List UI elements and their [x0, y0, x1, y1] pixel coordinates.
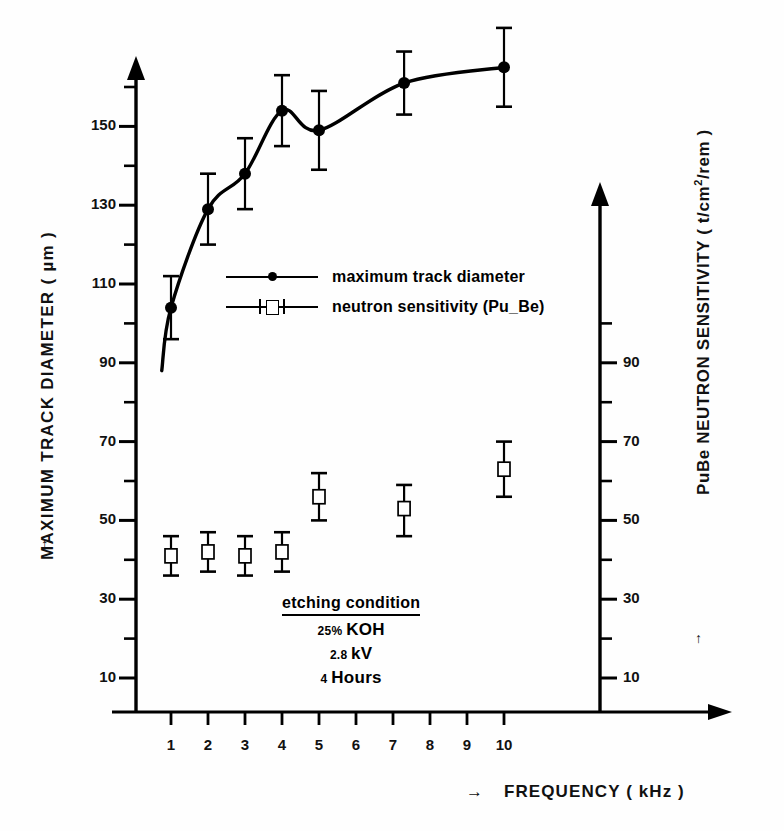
data-point-neutron-sensitivity	[313, 490, 325, 504]
etching-condition-value: 25%	[318, 624, 347, 638]
axes-layer	[112, 56, 732, 725]
data-point-track-diameter	[239, 168, 251, 180]
left-axis-tick-label: 30	[76, 589, 116, 606]
data-point-neutron-sensitivity	[398, 502, 410, 516]
data-point-neutron-sensitivity	[202, 545, 214, 559]
etching-condition-text: Hours	[331, 668, 382, 687]
x-axis-tick-label: 10	[492, 736, 516, 753]
x-axis-arrow-icon: →	[466, 782, 483, 802]
etching-condition-text: KOH	[346, 620, 385, 639]
etching-condition-title: etching condition	[282, 594, 420, 616]
left-axis-tick-label: 90	[76, 353, 116, 370]
figure-container: 1030507090110130150 1030507090 123456789…	[0, 0, 784, 831]
etching-condition-value: 4	[321, 672, 332, 686]
legend-label-track-diameter: maximum track diameter	[332, 268, 525, 286]
etching-condition-line: 2.8 kV	[282, 644, 420, 664]
left-axis-tick-label: 110	[76, 274, 116, 291]
x-axis-tick-label: 8	[418, 736, 442, 753]
x-axis-tick-label: 6	[344, 736, 368, 753]
data-point-track-diameter	[276, 105, 288, 117]
etching-condition-value: 2.8	[330, 648, 351, 662]
right-axis-title: PuBe NEUTRON SENSITIVITY ( t/cm2/rem )	[692, 129, 714, 495]
right-axis-tick-label: 10	[623, 668, 663, 685]
x-axis-tick-label: 9	[455, 736, 479, 753]
x-axis-arrowhead-icon	[708, 704, 732, 720]
right-axis-tick-label: 90	[623, 353, 663, 370]
left-axis-tick-label: 10	[76, 668, 116, 685]
x-axis-tick-label: 3	[233, 736, 257, 753]
right-axis-title-tail: /rem )	[694, 129, 713, 179]
legend-label-neutron-sensitivity: neutron sensitivity (Pu_Be)	[332, 298, 545, 316]
x-axis-tick-label: 1	[159, 736, 183, 753]
filled-circle-marker-icon	[226, 269, 318, 285]
data-point-track-diameter	[202, 203, 214, 215]
right-axis-arrowhead-icon	[591, 182, 609, 206]
left-axis-title: MAXIMUM TRACK DIAMETER ( µm )	[38, 231, 58, 560]
legend: maximum track diameter neutron sensitivi…	[226, 262, 545, 322]
data-point-track-diameter	[398, 77, 410, 89]
data-point-neutron-sensitivity	[165, 549, 177, 563]
right-axis-title-main: PuBe NEUTRON SENSITIVITY ( t/cm	[694, 186, 713, 495]
fitted-curve	[162, 67, 504, 370]
etching-condition-line: 25% KOH	[282, 620, 420, 640]
right-axis-tick-label: 30	[623, 589, 663, 606]
legend-item-neutron-sensitivity: neutron sensitivity (Pu_Be)	[226, 292, 545, 322]
left-axis-arrow-icon: ↑	[41, 535, 49, 552]
left-axis-tick-label: 130	[76, 195, 116, 212]
open-square-marker-icon	[226, 299, 318, 315]
chart-canvas	[0, 0, 784, 831]
x-axis-tick-label: 7	[381, 736, 405, 753]
left-axis-arrowhead-icon	[127, 56, 145, 80]
x-axis-tick-label: 2	[196, 736, 220, 753]
left-axis-tick-label: 150	[76, 116, 116, 133]
data-point-neutron-sensitivity	[239, 549, 251, 563]
data-point-neutron-sensitivity	[498, 462, 510, 476]
data-point-neutron-sensitivity	[276, 545, 288, 559]
left-axis-tick-label: 50	[76, 510, 116, 527]
etching-condition-note: etching condition 25% KOH2.8 kV4 Hours	[282, 594, 420, 688]
x-axis-title: FREQUENCY ( kHz )	[504, 782, 685, 802]
legend-item-track-diameter: maximum track diameter	[226, 262, 545, 292]
etching-condition-line: 4 Hours	[282, 668, 420, 688]
data-point-track-diameter	[165, 302, 177, 314]
data-point-track-diameter	[313, 124, 325, 136]
left-axis-tick-label: 70	[76, 432, 116, 449]
right-axis-tick-label: 50	[623, 510, 663, 527]
x-axis-tick-label: 4	[270, 736, 294, 753]
etching-condition-text: kV	[351, 644, 372, 663]
x-axis-tick-label: 5	[307, 736, 331, 753]
right-axis-arrow-icon: ↑	[695, 630, 702, 646]
data-point-track-diameter	[498, 61, 510, 73]
right-axis-tick-label: 70	[623, 432, 663, 449]
etching-condition-lines: 25% KOH2.8 kV4 Hours	[282, 620, 420, 688]
right-axis-title-superscript: 2	[692, 179, 704, 186]
